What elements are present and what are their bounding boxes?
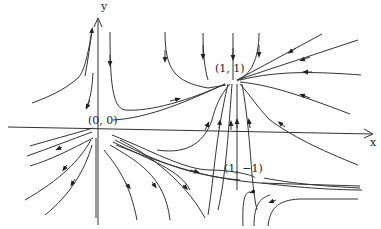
equilibrium-label-origin: (0, 0): [88, 114, 118, 127]
x-axis-label: x: [370, 136, 377, 149]
equilibrium-label-1-1: (1, 1): [215, 62, 245, 75]
x-axis: [8, 127, 372, 134]
phase-portrait: y x (0, 0) (1, 1) (1, −1): [0, 0, 381, 229]
y-axis-label: y: [100, 0, 108, 13]
